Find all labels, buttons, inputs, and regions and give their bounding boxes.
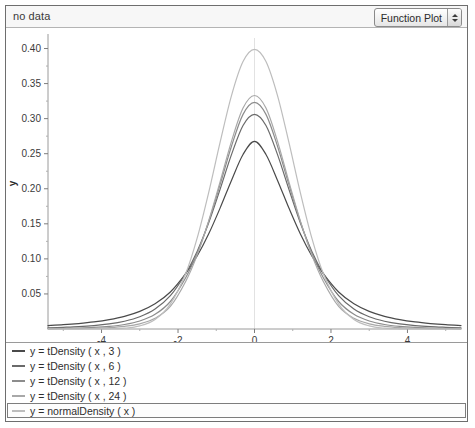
y-axis-tick-label: 0.30 — [22, 113, 42, 124]
y-axis-tick-label: 0.05 — [22, 288, 42, 299]
legend-item-label: y = tDensity ( x , 12 ) — [30, 375, 127, 387]
legend-item-label: y = tDensity ( x , 6 ) — [30, 360, 121, 372]
legend-item-label: y = tDensity ( x , 3 ) — [30, 345, 121, 357]
y-axis-tick-label: 0.35 — [22, 78, 42, 89]
plot-type-stepper[interactable] — [447, 9, 461, 26]
y-axis-label: y — [7, 180, 18, 186]
function-plot-window: no data Function Plot 0.050.100.150.200.… — [5, 5, 468, 422]
triangle-up-icon — [452, 14, 458, 17]
function-plot-svg: 0.050.100.150.200.250.300.350.40-4-2024x… — [6, 28, 467, 344]
legend-color-swatch — [12, 410, 25, 412]
plot-type-selector[interactable]: Function Plot — [374, 8, 462, 27]
y-axis-tick-label: 0.10 — [22, 253, 42, 264]
plot-area[interactable]: 0.050.100.150.200.250.300.350.40-4-2024x… — [6, 28, 467, 344]
legend-item-label: y = normalDensity ( x ) — [30, 405, 135, 417]
y-axis-tick-label: 0.20 — [22, 183, 42, 194]
legend-item[interactable]: y = tDensity ( x , 3 ) — [7, 343, 466, 358]
legend-color-swatch — [12, 365, 25, 367]
legend-item[interactable]: y = tDensity ( x , 12 ) — [7, 373, 466, 388]
legend-item[interactable]: y = tDensity ( x , 24 ) — [7, 388, 466, 403]
legend-color-swatch — [12, 380, 25, 382]
plot-type-selector-value: Function Plot — [375, 9, 447, 26]
triangle-down-icon — [452, 19, 458, 22]
legend-item-label: y = tDensity ( x , 24 ) — [30, 390, 127, 402]
plot-legend: y = tDensity ( x , 3 )y = tDensity ( x ,… — [6, 342, 467, 421]
y-axis-tick-label: 0.25 — [22, 148, 42, 159]
legend-item[interactable]: y = tDensity ( x , 6 ) — [7, 358, 466, 373]
legend-color-swatch — [12, 395, 25, 397]
legend-color-swatch — [12, 350, 25, 352]
y-axis-tick-label: 0.40 — [22, 43, 42, 54]
window-header: no data Function Plot — [6, 6, 467, 28]
status-text: no data — [13, 10, 50, 22]
legend-item[interactable]: y = normalDensity ( x ) — [7, 403, 466, 418]
y-axis-tick-label: 0.15 — [22, 218, 42, 229]
